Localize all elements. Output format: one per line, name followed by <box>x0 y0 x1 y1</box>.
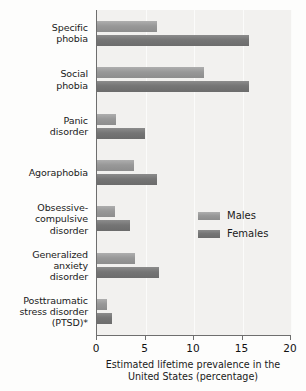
category-label-line: phobia <box>0 33 88 44</box>
gridline <box>291 10 292 335</box>
category-label-line: (PTSD)* <box>0 317 88 328</box>
x-axis-tick-label: 0 <box>76 342 116 354</box>
legend-item-females: Females <box>198 228 268 239</box>
x-axis-tick-label: 20 <box>270 342 306 354</box>
bar-males <box>97 253 135 264</box>
x-axis-title: Estimated lifetime prevalence in the Uni… <box>86 359 300 383</box>
category-label: Socialphobia <box>0 68 88 90</box>
category-label-line: phobia <box>0 80 88 91</box>
category-label: Agoraphobia <box>0 167 88 178</box>
bar-females <box>97 128 145 139</box>
bar-males <box>97 67 204 78</box>
bar-males <box>97 206 115 217</box>
x-axis-tick-label: 5 <box>125 342 165 354</box>
category-label-line: stress disorder <box>0 306 88 317</box>
category-label-line: Agoraphobia <box>0 167 88 178</box>
gridline <box>194 10 195 335</box>
plot-area <box>96 10 291 335</box>
bar-males <box>97 160 134 171</box>
category-label-line: Posttraumatic <box>0 295 88 306</box>
x-axis-tick <box>242 335 243 340</box>
x-axis-tick <box>193 335 194 340</box>
bar-females <box>97 313 112 324</box>
category-label-line: disorder <box>0 126 88 137</box>
category-label-line: compulsive <box>0 213 88 224</box>
gridline <box>146 10 147 335</box>
category-label: Generalizedanxietydisorder <box>0 249 88 283</box>
legend-item-males: Males <box>198 210 268 221</box>
legend-label-males: Males <box>227 210 256 221</box>
category-label-line: disorder <box>0 225 88 236</box>
bar-females <box>97 174 157 185</box>
legend-swatch-males-icon <box>198 212 220 220</box>
x-axis-tick <box>96 335 97 340</box>
bar-males <box>97 21 157 32</box>
category-label: Posttraumaticstress disorder(PTSD)* <box>0 295 88 329</box>
category-label: Obsessive-compulsivedisorder <box>0 202 88 236</box>
bar-females <box>97 35 249 46</box>
bar-females <box>97 81 249 92</box>
category-label-line: Panic <box>0 115 88 126</box>
category-axis: SpecificphobiaSocialphobiaPanicdisorderA… <box>0 0 92 330</box>
bar-chart: SpecificphobiaSocialphobiaPanicdisorderA… <box>0 0 306 391</box>
category-label-line: Social <box>0 68 88 79</box>
category-label: Panicdisorder <box>0 115 88 137</box>
category-label-line: Obsessive- <box>0 202 88 213</box>
x-axis-tick <box>290 335 291 340</box>
legend-swatch-females-icon <box>198 230 220 238</box>
chart-legend: Males Females <box>198 210 268 246</box>
category-label-line: Specific <box>0 22 88 33</box>
bar-males <box>97 114 116 125</box>
category-label-line: Generalized <box>0 249 88 260</box>
category-label-line: anxiety <box>0 260 88 271</box>
category-label-line: disorder <box>0 271 88 282</box>
x-axis-tick <box>145 335 146 340</box>
bar-females <box>97 220 130 231</box>
gridline <box>243 10 244 335</box>
bar-females <box>97 267 159 278</box>
x-axis-tick-label: 10 <box>173 342 213 354</box>
category-label: Specificphobia <box>0 22 88 44</box>
bar-males <box>97 299 107 310</box>
x-axis-title-line-2: United States (percentage) <box>86 371 300 383</box>
legend-label-females: Females <box>227 228 268 239</box>
x-axis-tick-label: 15 <box>222 342 262 354</box>
x-axis-title-line-1: Estimated lifetime prevalence in the <box>86 359 300 371</box>
